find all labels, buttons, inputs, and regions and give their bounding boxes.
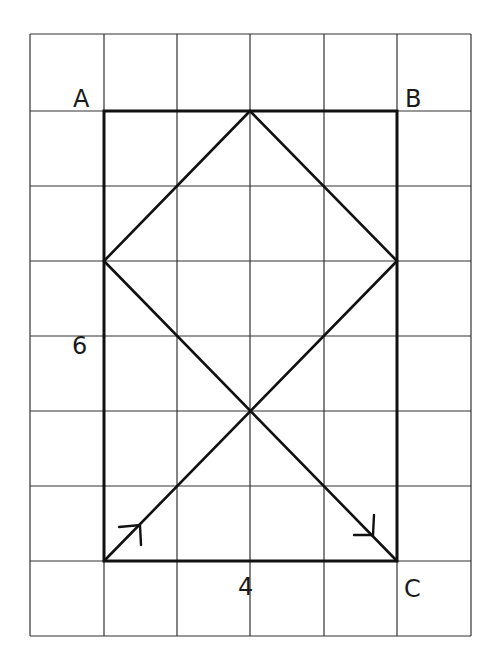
direction-arrow-icons [119,515,374,545]
vertex-label-b: B [405,87,421,111]
width-label: 4 [238,575,253,599]
height-label: 6 [72,334,87,358]
vertex-label-a: A [73,87,89,111]
grid [30,34,471,636]
vertex-label-c: C [404,577,421,601]
